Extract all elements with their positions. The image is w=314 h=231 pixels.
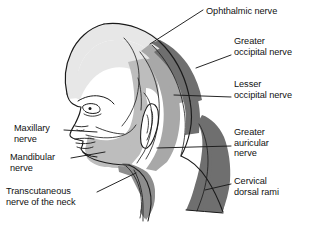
- label-lesser-occipital-nerve: Lesser occipital nerve: [234, 79, 292, 100]
- label-ophthalmic-nerve: Ophthalmic nerve: [206, 6, 277, 17]
- label-cervical-dorsal-rami: Cervical dorsal rami: [234, 176, 279, 197]
- label-maxillary-nerve: Maxillary nerve: [14, 123, 50, 144]
- anatomical-figure: Ophthalmic nerve Greater occipital nerve…: [0, 0, 314, 231]
- pupil: [89, 107, 92, 110]
- label-greater-auricular-nerve: Greater auricular nerve: [234, 127, 269, 159]
- label-transcutaneous-nerve-of-the-neck: Transcutaneous nerve of the neck: [6, 186, 76, 207]
- label-greater-occipital-nerve: Greater occipital nerve: [234, 36, 292, 57]
- label-mandibular-nerve: Mandibular nerve: [10, 152, 55, 173]
